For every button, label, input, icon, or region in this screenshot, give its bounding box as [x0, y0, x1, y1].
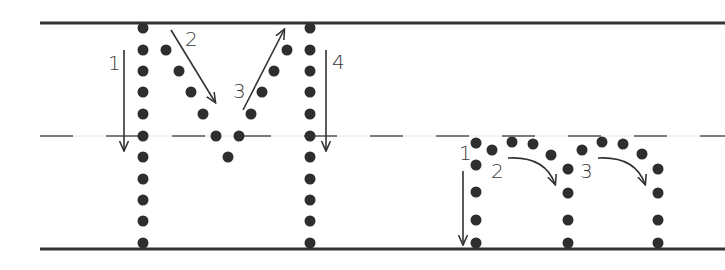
m-upper-stroke-1-label: 1: [108, 53, 121, 73]
lowercase-m-dots: [471, 137, 664, 249]
m-upper-stroke-4-label: 4: [332, 52, 345, 72]
tracing-worksheet: 1 2 3 4 1 2 3: [0, 0, 725, 270]
m-upper-stroke-3-label: 3: [233, 81, 246, 101]
m-lower-stroke-3-label: 3: [580, 161, 593, 181]
stroke-2-arrow: [508, 158, 555, 184]
m-lower-stroke-1-label: 1: [459, 143, 472, 163]
m-upper-stroke-2-label: 2: [185, 29, 198, 49]
stroke-3-arrow: [598, 158, 645, 184]
m-lower-stroke-2-label: 2: [491, 161, 504, 181]
uppercase-m-arrows: [124, 30, 326, 150]
